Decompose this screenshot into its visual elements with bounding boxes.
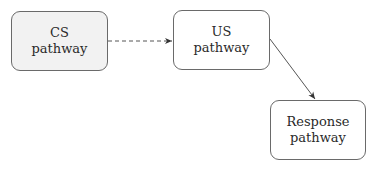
us-pathway-node: US pathway: [173, 10, 270, 70]
cs-pathway-label-line2: pathway: [32, 41, 88, 57]
response-pathway-node: Response pathway: [270, 100, 366, 160]
us-pathway-label-line2: pathway: [194, 40, 250, 56]
us-pathway-label-line1: US: [212, 24, 232, 40]
solid-arrow-us-to-response: [270, 39, 315, 99]
response-pathway-label-line2: pathway: [290, 130, 346, 146]
cs-pathway-node: CS pathway: [11, 11, 108, 71]
response-pathway-label-line1: Response: [286, 114, 349, 130]
cs-pathway-label-line1: CS: [50, 25, 69, 41]
